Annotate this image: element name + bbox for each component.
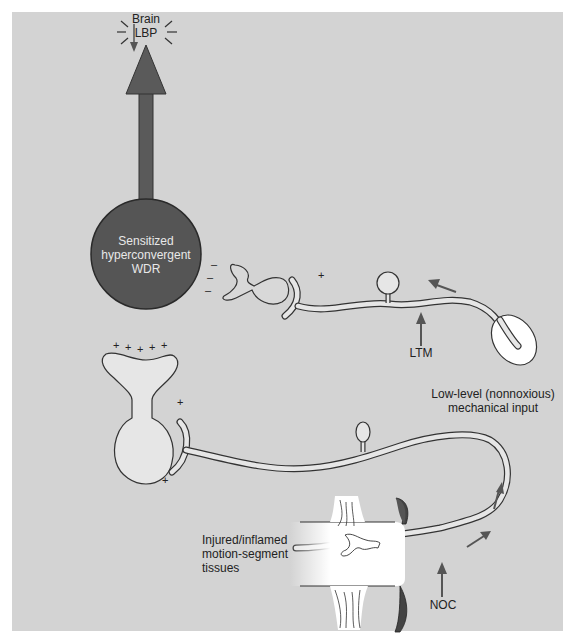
tissue-label-line2: motion-segment: [202, 547, 288, 561]
motion-segment-tissue: [290, 496, 408, 632]
tissue-label: Injured/inflamed motion-segment tissues: [202, 533, 288, 575]
brain-label: Brain LBP: [122, 12, 170, 40]
noc-direction-arrow-lower-icon: [467, 531, 491, 547]
minus-sign: –: [211, 259, 217, 270]
ltm-afferent-fiber: [285, 272, 508, 340]
ltm-direction-arrow-icon: [428, 279, 456, 292]
brain-label-line1: Brain: [122, 12, 170, 26]
ltm-input-arrow-icon: [416, 312, 426, 346]
plus-sign: +: [318, 270, 324, 281]
lbp-label: LBP: [122, 26, 170, 40]
noc-input-arrow-icon: [437, 562, 447, 597]
tissue-label-line3: tissues: [202, 561, 288, 575]
wdr-label-line3: WDR: [91, 262, 201, 276]
noc-label: NOC: [428, 598, 458, 612]
plus-sign: +: [149, 342, 155, 353]
tissue-label-line1: Injured/inflamed: [202, 533, 288, 547]
wdr-label: Sensitized hyperconvergent WDR: [91, 234, 201, 276]
plus-sign: +: [113, 340, 119, 351]
ascending-arrow-icon: [126, 45, 166, 212]
wdr-label-line1: Sensitized: [91, 234, 201, 248]
plus-sign: +: [177, 397, 183, 408]
minus-sign: –: [207, 272, 213, 283]
minus-sign: –: [205, 285, 211, 296]
mechanical-input-label: Low-level (nonnoxious) mechanical input: [420, 387, 566, 415]
lower-interneuron: [102, 353, 177, 484]
plus-sign: +: [162, 475, 168, 486]
ltm-label: LTM: [406, 346, 436, 360]
mechanical-input-line2: mechanical input: [420, 401, 566, 415]
plus-sign: +: [137, 344, 143, 355]
plus-sign: +: [125, 342, 131, 353]
plus-sign: +: [161, 340, 167, 351]
upper-interneuron: [223, 264, 289, 304]
mechanical-input-line1: Low-level (nonnoxious): [420, 387, 566, 401]
wdr-label-line2: hyperconvergent: [91, 248, 201, 262]
